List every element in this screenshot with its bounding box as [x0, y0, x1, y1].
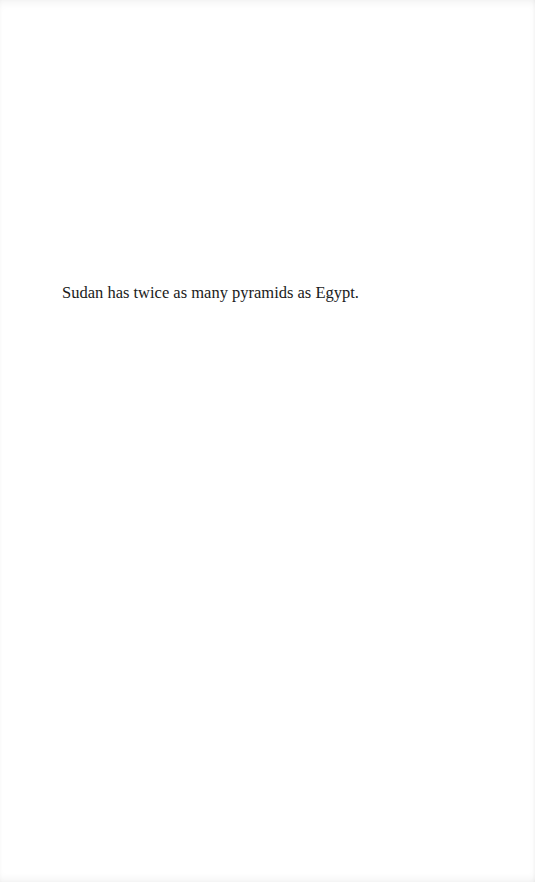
document-page: Sudan has twice as many pyramids as Egyp… — [0, 0, 535, 882]
body-paragraph: Sudan has twice as many pyramids as Egyp… — [62, 283, 359, 303]
